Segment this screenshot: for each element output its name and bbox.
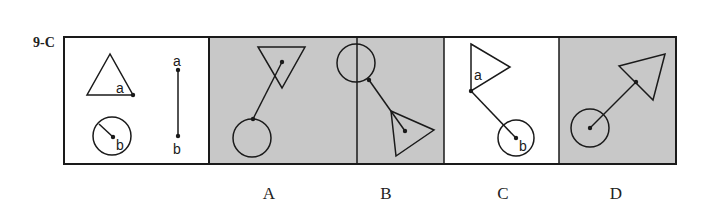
option-a-dot [251, 117, 255, 121]
option-b-dot [403, 129, 407, 133]
option-c-panel[interactable] [444, 37, 559, 164]
option-a-panel[interactable] [209, 37, 357, 164]
point-a-dot [131, 93, 135, 97]
option-b-label[interactable]: B [371, 184, 401, 204]
label-a: a [116, 80, 124, 96]
option-c-dot-b [514, 136, 518, 140]
option-b-dot [367, 78, 371, 82]
option-d-dot [588, 126, 592, 130]
puzzle-figure: a b a b a b [0, 0, 706, 215]
segment-label-b: b [173, 141, 181, 157]
option-b-panel[interactable] [357, 37, 444, 164]
option-d-label[interactable]: D [601, 184, 631, 204]
option-d-dot [634, 80, 638, 84]
option-c-label[interactable]: C [488, 184, 518, 204]
option-a-dot [280, 60, 284, 64]
option-a-label[interactable]: A [254, 184, 284, 204]
point-b-dot [111, 135, 115, 139]
label-b: b [116, 137, 124, 153]
segment-label-a: a [173, 53, 181, 69]
option-c-label-a: a [474, 67, 482, 83]
option-c-label-b: b [519, 138, 527, 154]
prompt-segment [176, 68, 180, 138]
prompt-triangle [87, 54, 133, 95]
option-c-dot-a [469, 89, 473, 93]
